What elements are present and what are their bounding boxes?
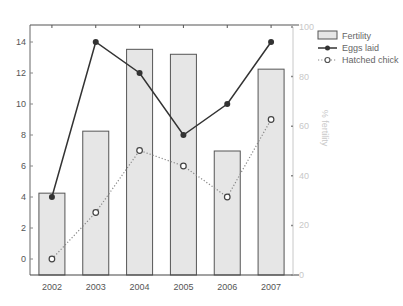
hatched-chick-marker-icon (49, 256, 55, 262)
eggs-laid-marker-icon (224, 101, 230, 107)
left-tick-label: 12 (16, 68, 26, 78)
legend-swatch-fertility (318, 31, 337, 39)
eggs-laid-marker-icon (137, 70, 143, 76)
right-tick-label: 20 (299, 220, 309, 230)
right-tick-label: 40 (299, 171, 309, 181)
x-tick-label: 2003 (86, 282, 106, 292)
legend-marker-eggs-icon (325, 46, 330, 51)
hatched-chick-marker-icon (137, 148, 143, 154)
right-tick-label: 80 (299, 72, 309, 82)
x-tick-label: 2007 (261, 282, 281, 292)
right-axis-title: % fertility (320, 110, 330, 147)
legend-label-fertility: Fertility (342, 31, 371, 41)
hatched-chick-marker-icon (268, 117, 274, 123)
fertility-bar (127, 49, 153, 275)
eggs-laid-marker-icon (49, 194, 55, 200)
x-tick-label: 2005 (173, 282, 193, 292)
eggs-laid-marker-icon (93, 39, 99, 45)
left-tick-label: 0 (21, 254, 26, 264)
hatched-chick-marker-icon (181, 163, 187, 169)
legend-label-hatched: Hatched chick (342, 55, 399, 65)
hatched-chick-marker-icon (93, 210, 99, 216)
left-tick-label: 10 (16, 99, 26, 109)
eggs-laid-marker-icon (180, 132, 186, 138)
right-tick-label: 0 (299, 270, 304, 280)
combo-chart: 02468101214020406080100% fertility200220… (0, 0, 403, 306)
left-tick-label: 8 (21, 130, 26, 140)
eggs-laid-marker-icon (268, 39, 274, 45)
left-tick-label: 14 (16, 37, 26, 47)
x-tick-label: 2006 (217, 282, 237, 292)
legend-label-eggs: Eggs laid (342, 43, 379, 53)
left-tick-label: 2 (21, 223, 26, 233)
legend-marker-hatched-icon (325, 58, 330, 63)
x-tick-label: 2004 (130, 282, 150, 292)
fertility-bar (83, 131, 109, 275)
right-tick-label: 100 (299, 22, 314, 32)
fertility-bar (214, 151, 240, 275)
right-tick-label: 60 (299, 121, 309, 131)
fertility-bar (39, 193, 65, 275)
legend: Fertility Eggs laid Hatched chick (318, 31, 399, 65)
left-tick-label: 6 (21, 161, 26, 171)
fertility-bar (258, 69, 284, 275)
left-tick-label: 4 (21, 192, 26, 202)
hatched-chick-marker-icon (224, 194, 230, 200)
fertility-bars (39, 49, 284, 275)
x-tick-label: 2002 (42, 282, 62, 292)
